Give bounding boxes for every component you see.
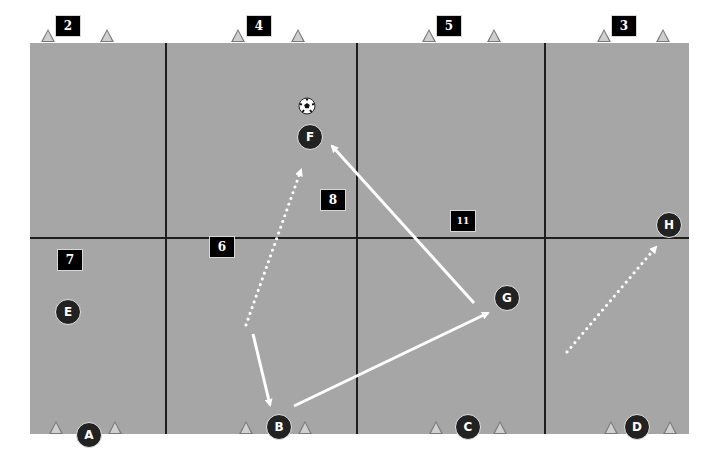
player-h: H bbox=[656, 212, 682, 238]
cone-icon bbox=[604, 421, 618, 434]
pass-b-to-g-arrow bbox=[294, 313, 488, 406]
cone-icon bbox=[41, 29, 55, 42]
zone-label-2: 2 bbox=[56, 16, 80, 36]
cone-icon bbox=[597, 29, 611, 42]
cone-icon bbox=[493, 421, 507, 434]
run-to-b-arrow bbox=[253, 334, 270, 405]
cone-icon bbox=[231, 29, 245, 42]
run-to-f-arrow bbox=[246, 170, 301, 325]
player-d: D bbox=[624, 414, 650, 440]
player-b: B bbox=[266, 414, 292, 440]
cone-icon bbox=[663, 421, 677, 434]
cone-icon bbox=[422, 29, 436, 42]
cone-icon bbox=[49, 421, 63, 434]
cone-icon bbox=[291, 29, 305, 42]
cone-icon bbox=[108, 421, 122, 434]
run-to-h-arrow bbox=[567, 247, 656, 352]
zone-label-4: 4 bbox=[247, 16, 271, 36]
zone-label-6: 6 bbox=[210, 237, 234, 257]
cone-icon bbox=[100, 29, 114, 42]
player-g: G bbox=[494, 285, 520, 311]
drill-diagram: 245381176 ABCDEFGH bbox=[0, 0, 720, 463]
cone-icon bbox=[429, 421, 443, 434]
cone-icon bbox=[656, 29, 670, 42]
zone-label-7: 7 bbox=[58, 250, 82, 270]
zone-label-3: 3 bbox=[612, 16, 636, 36]
cone-icon bbox=[487, 29, 501, 42]
zone-label-8: 8 bbox=[321, 190, 345, 210]
player-a: A bbox=[76, 422, 102, 448]
movement-arrows bbox=[0, 0, 720, 463]
cone-icon bbox=[239, 421, 253, 434]
zone-label-11: 11 bbox=[451, 211, 475, 231]
player-c: C bbox=[455, 414, 481, 440]
cone-icon bbox=[298, 421, 312, 434]
zone-label-5: 5 bbox=[437, 16, 461, 36]
player-e: E bbox=[55, 299, 81, 325]
player-f: F bbox=[297, 124, 323, 150]
soccer-ball-icon bbox=[298, 97, 316, 115]
